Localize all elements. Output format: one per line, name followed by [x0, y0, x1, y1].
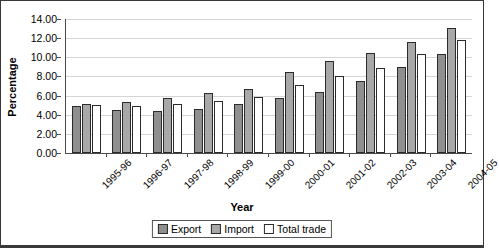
bar-export	[153, 111, 162, 153]
bar-total-trade	[254, 97, 263, 153]
y-tick-label: 14.00	[31, 13, 57, 25]
bar-total-trade	[457, 40, 466, 153]
x-tick-label: 2000-01	[303, 157, 337, 191]
bar-import	[163, 98, 172, 154]
y-tick-mark	[57, 134, 61, 135]
bar-group	[66, 19, 107, 153]
legend-swatch-icon	[211, 224, 221, 234]
y-tick-label: 6.00	[37, 90, 57, 102]
bar-export	[275, 98, 284, 154]
bar-import	[82, 104, 91, 153]
bar-group	[431, 19, 472, 153]
bar-total-trade	[376, 68, 385, 153]
y-tick-label: 8.00	[37, 70, 57, 82]
legend-swatch-icon	[158, 224, 168, 234]
bar-total-trade	[92, 105, 101, 153]
bar-import	[325, 61, 334, 153]
x-tick-label: 2001-02	[344, 157, 378, 191]
legend-label: Export	[171, 223, 201, 235]
bar-group	[310, 19, 351, 153]
bar-export	[356, 81, 365, 153]
bar-groups	[66, 19, 472, 153]
legend-item-export: Export	[158, 223, 201, 235]
y-tick-label: 2.00	[37, 128, 57, 140]
bar-total-trade	[417, 54, 426, 153]
bar-import	[447, 28, 456, 153]
bar-group	[269, 19, 310, 153]
x-tick-label: 2004-05	[466, 157, 499, 191]
x-tick-label: 1995-96	[100, 157, 134, 191]
x-tick-label: 2002-03	[384, 157, 418, 191]
y-tick-label: 0.00	[37, 147, 57, 159]
legend-item-import: Import	[211, 223, 254, 235]
x-tick-label: 2003-04	[425, 157, 459, 191]
x-tick-label: 1997-98	[181, 157, 215, 191]
bar-export	[437, 54, 446, 153]
legend-label: Total trade	[277, 223, 326, 235]
bar-total-trade	[335, 76, 344, 153]
bar-export	[315, 92, 324, 153]
legend-item-total-trade: Total trade	[264, 223, 326, 235]
bar-group	[391, 19, 432, 153]
y-tick-mark	[57, 57, 61, 58]
y-tick-label: 4.00	[37, 109, 57, 121]
bar-import	[285, 72, 294, 153]
y-axis-title-text: Percentage	[6, 57, 18, 116]
x-axis-tick-labels: 1995-961996-971997-981998-991999-002000-…	[65, 157, 471, 201]
plot-area	[65, 19, 472, 154]
x-tick-label: 1999-00	[263, 157, 297, 191]
y-tick-label: 10.00	[31, 51, 57, 63]
bar-group	[188, 19, 229, 153]
x-tick-label: 1998-99	[222, 157, 256, 191]
bar-group	[147, 19, 188, 153]
chart-legend: ExportImportTotal trade	[152, 220, 332, 238]
bar-import	[204, 93, 213, 153]
bottom-rule	[1, 245, 483, 247]
x-tick-label: 1996-97	[141, 157, 175, 191]
bar-total-trade	[173, 104, 182, 153]
bar-import	[122, 102, 131, 153]
bar-group	[228, 19, 269, 153]
legend-label: Import	[224, 223, 254, 235]
y-tick-mark	[57, 115, 61, 116]
bar-export	[234, 104, 243, 153]
bar-group	[350, 19, 391, 153]
legend-swatch-icon	[264, 224, 274, 234]
bar-import	[366, 53, 375, 153]
bar-total-trade	[132, 106, 141, 153]
x-axis-title: Year	[1, 201, 483, 213]
y-tick-mark	[57, 38, 61, 39]
y-tick-mark	[57, 153, 61, 154]
bar-import	[407, 42, 416, 153]
bar-export	[112, 110, 121, 153]
y-tick-mark	[57, 96, 61, 97]
bar-export	[72, 106, 81, 153]
bar-total-trade	[295, 85, 304, 153]
y-tick-mark	[57, 19, 61, 20]
bar-export	[397, 67, 406, 153]
y-axis-tick-labels: 0.002.004.006.008.0010.0012.0014.00	[19, 13, 61, 159]
y-tick-mark	[57, 76, 61, 77]
y-tick-label: 12.00	[31, 32, 57, 44]
bar-export	[194, 109, 203, 153]
bar-group	[107, 19, 148, 153]
bar-import	[244, 89, 253, 153]
bar-total-trade	[214, 101, 223, 153]
